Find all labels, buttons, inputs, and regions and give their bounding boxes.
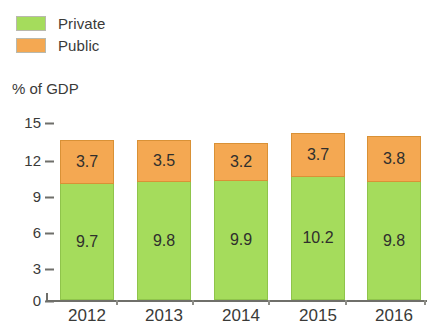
bar-value-public-2015: 3.7 [307, 147, 329, 163]
bar-group-2013[interactable]: 3.5 9.8 [137, 140, 191, 300]
bar-segment-private-2016[interactable]: 9.8 [367, 182, 421, 300]
bar-segment-private-2015[interactable]: 10.2 [291, 177, 345, 300]
bar-group-2015[interactable]: 3.7 10.2 [291, 133, 345, 300]
legend-item-private: Private [16, 12, 105, 34]
bar-value-public-2013: 3.5 [153, 153, 175, 169]
bar-value-private-2012: 9.7 [76, 234, 98, 250]
bar-value-private-2016: 9.8 [383, 233, 405, 249]
bar-segment-private-2014[interactable]: 9.9 [214, 181, 268, 300]
bar-segment-public-2014[interactable]: 3.2 [214, 143, 268, 181]
bar-series-container: 3.7 9.7 3.5 9.8 3.2 9.9 3.7 10.2 3.8 9.8 [0, 108, 433, 331]
x-axis-label-2012: 2012 [60, 306, 114, 326]
bar-group-2014[interactable]: 3.2 9.9 [214, 143, 268, 300]
legend-swatch-private-icon [16, 16, 46, 31]
legend-item-public: Public [16, 34, 105, 56]
x-axis-label-2015: 2015 [291, 306, 345, 326]
bar-segment-private-2012[interactable]: 9.7 [60, 184, 114, 300]
bar-value-public-2014: 3.2 [230, 154, 252, 170]
legend-label-public: Public [58, 37, 99, 54]
bar-group-2016[interactable]: 3.8 9.8 [367, 136, 421, 300]
bar-segment-public-2016[interactable]: 3.8 [367, 136, 421, 182]
plot-area: 15 12 9 6 3 0 3.7 9.7 3.5 9.8 3.2 9.9 [0, 108, 433, 331]
bar-segment-public-2013[interactable]: 3.5 [137, 140, 191, 182]
bar-value-private-2015: 10.2 [302, 230, 333, 246]
x-axis-label-2013: 2013 [137, 306, 191, 326]
legend-label-private: Private [58, 15, 105, 32]
bar-value-public-2012: 3.7 [76, 154, 98, 170]
x-axis-labels: 2012 2013 2014 2015 2016 [0, 306, 433, 331]
y-axis-unit-label: % of GDP [12, 80, 79, 97]
bar-value-private-2014: 9.9 [230, 232, 252, 248]
bar-group-2012[interactable]: 3.7 9.7 [60, 140, 114, 300]
chart-legend: Private Public [16, 12, 105, 56]
bar-segment-private-2013[interactable]: 9.8 [137, 182, 191, 300]
x-axis-label-2014: 2014 [214, 306, 268, 326]
bar-value-public-2016: 3.8 [383, 151, 405, 167]
stacked-bar-chart: Private Public % of GDP 15 12 9 6 3 0 3.… [0, 0, 433, 331]
legend-swatch-public-icon [16, 38, 46, 53]
bar-value-private-2013: 9.8 [153, 233, 175, 249]
x-axis-label-2016: 2016 [367, 306, 421, 326]
bar-segment-public-2012[interactable]: 3.7 [60, 140, 114, 184]
bar-segment-public-2015[interactable]: 3.7 [291, 133, 345, 177]
